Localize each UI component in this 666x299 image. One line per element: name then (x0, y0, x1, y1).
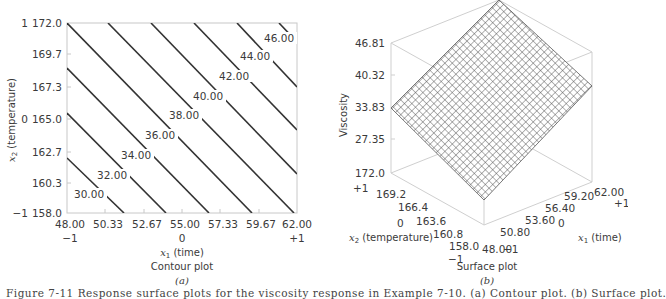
contour-label: 34.00 (121, 149, 151, 161)
svg-text:40.32: 40.32 (355, 69, 385, 81)
contour-panel-label: (a) (175, 275, 189, 286)
contour-x-coded-labels: −1 0 +1 (62, 232, 304, 244)
svg-text:+1: +1 (289, 232, 304, 244)
contour-x-axis-label: x1 (time) (160, 247, 204, 260)
surface-panel: 46.81 40.32 33.83 27.35 172.0 Viscosity … (338, 0, 628, 286)
svg-text:0: 0 (558, 217, 565, 229)
contour-label: 44.00 (240, 50, 270, 62)
svg-text:46.81: 46.81 (355, 37, 385, 49)
svg-text:57.33: 57.33 (208, 218, 238, 230)
svg-text:+1: +1 (614, 197, 628, 209)
contour-panel: 30.00 32.00 34.00 36.00 38.00 40.00 42.0… (6, 17, 312, 286)
svg-text:62.00: 62.00 (282, 218, 312, 230)
svg-text:165.0: 165.0 (32, 113, 62, 125)
contour-y-tick-labels: 172.0 169.7 167.3 165.0 162.7 160.3 158.… (32, 17, 62, 219)
contour-label: 30.00 (74, 188, 104, 200)
contour-plot-title: Contour plot (151, 261, 213, 272)
contour-label: 46.00 (264, 32, 294, 44)
svg-text:169.2: 169.2 (376, 188, 406, 200)
surface-plot-title: Surface plot (457, 261, 518, 272)
contour-label: 40.00 (193, 90, 223, 102)
svg-text:−1: −1 (62, 232, 77, 244)
contour-label: 36.00 (145, 129, 175, 141)
svg-text:163.6: 163.6 (416, 215, 446, 227)
svg-text:50.33: 50.33 (93, 218, 123, 230)
svg-text:52.67: 52.67 (132, 218, 162, 230)
svg-text:160.8: 160.8 (433, 228, 463, 240)
svg-text:167.3: 167.3 (32, 81, 62, 93)
svg-text:−1: −1 (503, 243, 518, 255)
surface-z-axis-label: Viscosity (338, 93, 349, 137)
contour-x-tick-labels: 48.00 50.33 52.67 55.00 57.33 59.67 62.0… (55, 218, 312, 230)
surface-x2-tick-labels: +1 169.2 166.4 0 163.6 160.8 158.0 −1 (353, 182, 479, 265)
svg-text:166.4: 166.4 (398, 201, 428, 213)
svg-text:0: 0 (397, 217, 404, 229)
svg-text:−1: −1 (13, 207, 28, 219)
surface-panel-label: (b) (480, 275, 494, 286)
svg-text:169.7: 169.7 (32, 48, 62, 60)
svg-text:0: 0 (179, 232, 186, 244)
svg-text:53.60: 53.60 (525, 214, 555, 226)
svg-text:+1: +1 (353, 182, 368, 194)
svg-text:59.67: 59.67 (246, 218, 276, 230)
contour-label: 42.00 (219, 70, 249, 82)
svg-text:160.3: 160.3 (32, 177, 62, 189)
svg-text:172.0: 172.0 (32, 17, 62, 29)
figure-caption: Figure 7-11 Response surface plots for t… (6, 287, 666, 299)
svg-text:56.40: 56.40 (545, 202, 575, 214)
svg-text:50.80: 50.80 (500, 226, 530, 238)
svg-text:158.0: 158.0 (449, 240, 479, 252)
svg-text:48.00: 48.00 (55, 218, 85, 230)
contour-label: 38.00 (169, 109, 199, 121)
svg-text:1: 1 (21, 17, 28, 29)
svg-text:59.20: 59.20 (564, 190, 594, 202)
surface-x2-axis-label: x2 (temperature) (349, 232, 433, 245)
svg-text:33.83: 33.83 (355, 101, 385, 113)
surface-mesh (391, 0, 592, 200)
svg-text:27.35: 27.35 (355, 133, 385, 145)
svg-text:172.0: 172.0 (355, 167, 385, 179)
contour-label: 32.00 (97, 169, 127, 181)
svg-text:0: 0 (21, 113, 28, 125)
contour-y-axis-label: x2 (temperature) (6, 78, 19, 162)
surface-x1-axis-label: x1 (time) (578, 232, 622, 245)
svg-text:55.00: 55.00 (170, 218, 200, 230)
surface-z-tick-labels: 46.81 40.32 33.83 27.35 172.0 (355, 37, 385, 179)
svg-text:162.7: 162.7 (32, 146, 62, 158)
